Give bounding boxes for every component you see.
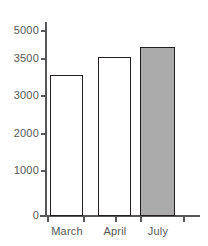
bar-march[interactable] <box>50 75 83 216</box>
y-tick-label-3000: 3000 <box>0 89 39 101</box>
bar-april[interactable] <box>98 57 131 216</box>
x-tick-mark <box>183 216 185 222</box>
y-tick-mark <box>41 95 46 97</box>
x-tick-mark <box>115 216 117 222</box>
x-tick-mark <box>83 216 85 222</box>
x-tick-mark <box>140 216 142 222</box>
y-tick-label-0: 0 <box>0 209 39 221</box>
y-tick-label-5000: 5000 <box>0 24 39 36</box>
y-tick-mark <box>41 215 46 217</box>
y-tick-mark <box>41 133 46 135</box>
y-tick-label-1000: 1000 <box>0 164 39 176</box>
y-tick-mark <box>41 30 46 32</box>
bar-chart: 5000 3500 3000 2000 1000 0 March April J… <box>0 0 208 246</box>
y-tick-label-3500: 3500 <box>0 52 39 64</box>
bar-july[interactable] <box>140 47 175 216</box>
y-tick-mark <box>41 58 46 60</box>
x-category-label-march: March <box>42 225 92 237</box>
x-tick-mark <box>47 216 49 222</box>
x-category-label-july: July <box>133 225 183 237</box>
y-axis-line <box>45 22 47 216</box>
y-tick-mark <box>41 170 46 172</box>
y-tick-label-2000: 2000 <box>0 127 39 139</box>
